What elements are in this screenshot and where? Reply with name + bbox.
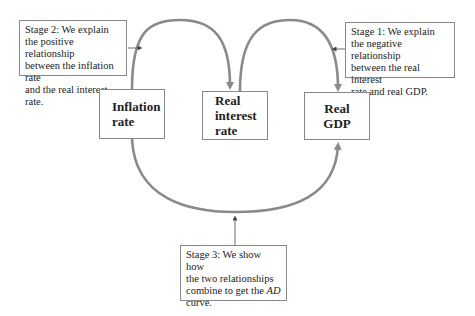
node-label: rate bbox=[215, 123, 257, 138]
node-label: interest bbox=[215, 108, 257, 123]
node-label: Inflation bbox=[112, 99, 160, 114]
stage2-line: Stage 2: We explain bbox=[25, 24, 121, 36]
stage1-arc bbox=[240, 20, 338, 91]
stage3-callout: Stage 3: We show how the two relationshi… bbox=[180, 245, 287, 301]
node-label: GDP bbox=[323, 116, 350, 131]
node-label: rate bbox=[112, 114, 160, 129]
stage3-arc bbox=[132, 139, 338, 212]
stage2-line: between the inflation rate bbox=[25, 60, 121, 84]
node-inflation-rate: Inflation rate bbox=[99, 89, 165, 139]
node-real-interest-rate: Real interest rate bbox=[202, 91, 268, 140]
stage1-callout: Stage 1: We explain the negative relatio… bbox=[345, 22, 455, 78]
stage3-line: Stage 3: We show how bbox=[186, 249, 281, 273]
stage3-text: combine to get the bbox=[186, 285, 264, 296]
stage3-line: curve. bbox=[186, 297, 281, 309]
node-label: Real bbox=[323, 101, 350, 116]
stage3-line: the two relationships bbox=[186, 273, 281, 285]
stage2-arc bbox=[132, 20, 230, 89]
stage1-line: between the real interest bbox=[351, 62, 449, 86]
stage1-line: Stage 1: We explain bbox=[351, 26, 449, 38]
stage2-line: the positive relationship bbox=[25, 36, 121, 60]
stage3-line: combine to get the AD bbox=[186, 285, 281, 297]
stage1-line: the negative relationship bbox=[351, 38, 449, 62]
node-label: Real bbox=[215, 93, 257, 108]
ad-term: AD bbox=[266, 285, 280, 296]
stage2-callout: Stage 2: We explain the positive relatio… bbox=[19, 20, 127, 76]
node-real-gdp: Real GDP bbox=[304, 92, 370, 140]
